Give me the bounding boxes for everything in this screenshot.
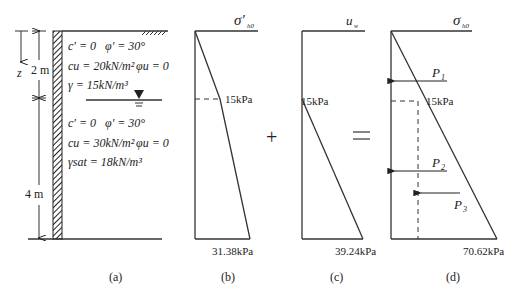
caption-b: (b): [221, 270, 235, 284]
layer1-friction: φ′ = 30°: [105, 39, 145, 53]
force-p3-subscript: 3: [462, 205, 467, 214]
title-b-subscript: h0: [247, 22, 255, 30]
retaining-wall: [53, 31, 62, 239]
force-p1-symbol: P: [431, 65, 440, 80]
force-p1-subscript: 1: [441, 73, 445, 82]
pore-pressure-profile: [302, 99, 363, 239]
depth-label: z: [16, 66, 22, 80]
dim-label-bottom: 4 m: [25, 187, 44, 201]
layer2-friction: φ′ = 30°: [105, 116, 145, 130]
panel-d-total-stress: σ h0 15kPa 70.62kPa P 1 P 2 P 3 (d): [391, 12, 504, 284]
layer1-undrained-friction: φu = 0: [136, 59, 169, 73]
caption-c: (c): [330, 270, 343, 284]
panel-c-pore-pressure: u w 15kPa 39.24kPa (c): [301, 13, 376, 284]
panel-b-effective-stress: σ′ h0 15kPa 31.38kPa (b): [195, 12, 258, 284]
equals-operator: [353, 132, 370, 139]
force-p2-symbol: P: [431, 155, 440, 170]
panel-a-soil-profile: z 2 m 4 m c′ = 0 φ′ = 30° cu = 20kN/m² φ…: [15, 31, 169, 284]
dim-label-top: 2 m: [31, 63, 50, 77]
layer1-undrained-cohesion: cu = 20kN/m²: [68, 59, 135, 73]
caption-a: (a): [109, 270, 122, 284]
mid-value-b: 15kPa: [225, 93, 253, 105]
title-c-subscript: w: [354, 23, 358, 29]
layer2-cohesion: c′ = 0: [68, 116, 96, 130]
force-p2-subscript: 2: [441, 163, 445, 172]
mid-value-c: 15kPa: [301, 95, 329, 107]
title-d-subscript: h0: [462, 22, 470, 30]
title-d-symbol: σ: [453, 12, 461, 28]
plus-operator: +: [266, 126, 277, 148]
title-c-symbol: u: [346, 13, 353, 28]
layer2-undrained-friction: φu = 0: [136, 136, 169, 150]
water-table-icon: [134, 90, 144, 99]
effective-stress-profile: [195, 31, 250, 239]
bottom-value-b: 31.38kPa: [212, 245, 253, 257]
layer2-undrained-cohesion: cu = 30kN/m²: [68, 136, 135, 150]
layer1-unit-weight: γ = 15kN/m³: [68, 78, 128, 92]
bottom-value-c: 39.24kPa: [335, 245, 376, 257]
layer1-cohesion: c′ = 0: [68, 39, 96, 53]
mid-value-d: 15kPa: [426, 95, 454, 107]
force-p3-symbol: P: [453, 197, 462, 212]
bottom-value-d: 70.62kPa: [463, 245, 504, 257]
title-b-symbol: σ′: [234, 12, 245, 28]
layer2-saturated-unit-weight: γsat = 18kN/m³: [68, 155, 142, 169]
caption-d: (d): [446, 270, 460, 284]
lateral-pressure-diagram: z 2 m 4 m c′ = 0 φ′ = 30° cu = 20kN/m² φ…: [0, 0, 525, 301]
total-stress-profile: [391, 31, 497, 239]
